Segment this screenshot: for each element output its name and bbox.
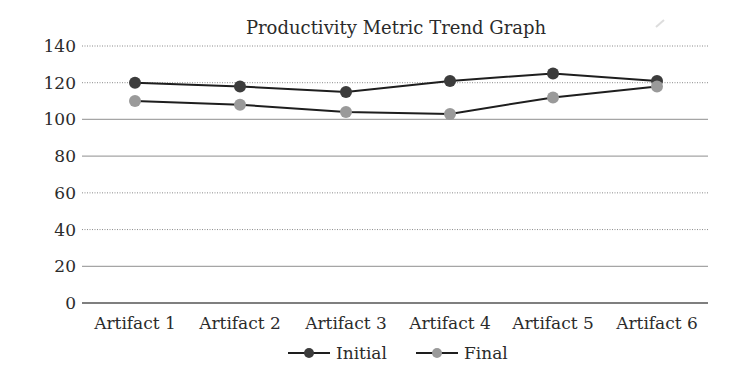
data-point[interactable] [444, 75, 456, 87]
data-point[interactable] [547, 91, 559, 103]
gridlines [82, 46, 708, 266]
y-tick-label: 60 [54, 183, 76, 203]
legend-marker-final-icon [432, 348, 442, 358]
data-point[interactable] [651, 80, 663, 92]
series-line-initial [135, 74, 657, 92]
data-point[interactable] [234, 99, 246, 111]
data-point[interactable] [547, 68, 559, 80]
y-tick-label: 20 [54, 256, 76, 276]
y-tick-label: 120 [44, 73, 76, 93]
y-tick-label: 80 [54, 146, 76, 166]
x-tick-label: Artifact 2 [198, 313, 281, 333]
data-point[interactable] [340, 106, 352, 118]
x-tick-label: Artifact 6 [615, 313, 698, 333]
x-tick-label: Artifact 4 [408, 313, 491, 333]
data-point[interactable] [129, 77, 141, 89]
x-axis-tick-labels: Artifact 1Artifact 2Artifact 3Artifact 4… [93, 313, 698, 333]
line-chart: Productivity Metric Trend Graph 02040608… [0, 0, 742, 381]
data-point[interactable] [234, 80, 246, 92]
series-group [129, 68, 663, 120]
series-line-final [135, 86, 657, 114]
y-axis-tick-labels: 020406080100120140 [44, 36, 76, 313]
data-point[interactable] [444, 108, 456, 120]
legend: Initial Final [288, 343, 508, 363]
x-tick-label: Artifact 1 [93, 313, 176, 333]
y-tick-label: 140 [44, 36, 76, 56]
legend-label-initial: Initial [336, 343, 387, 363]
chart-title: Productivity Metric Trend Graph [246, 17, 547, 38]
x-tick-label: Artifact 3 [304, 313, 387, 333]
x-tick-label: Artifact 5 [511, 313, 594, 333]
legend-item-initial[interactable]: Initial [288, 343, 387, 363]
legend-marker-initial-icon [304, 348, 314, 358]
y-tick-label: 0 [65, 293, 76, 313]
data-point[interactable] [340, 86, 352, 98]
data-point[interactable] [129, 95, 141, 107]
y-tick-label: 100 [44, 109, 76, 129]
legend-label-final: Final [464, 343, 508, 363]
legend-item-final[interactable]: Final [416, 343, 508, 363]
decorative-mark-icon [656, 20, 664, 27]
y-tick-label: 40 [54, 220, 76, 240]
